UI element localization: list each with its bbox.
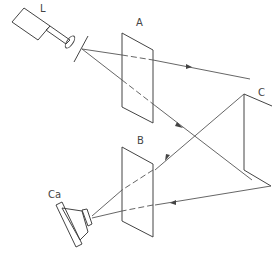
plate-b [122,147,153,237]
label-camera: Ca [48,190,61,200]
optical-diagram: L A C B Ca [0,0,278,259]
camera-icon [56,202,92,247]
label-plate-b: B [137,136,144,146]
label-mirror-c: C [258,88,265,98]
laser-icon [12,8,76,49]
label-plate-a: A [136,18,143,28]
aperture-slit [74,36,88,62]
mirror-c [244,94,272,186]
plate-a [122,33,153,123]
label-laser: L [40,4,46,14]
